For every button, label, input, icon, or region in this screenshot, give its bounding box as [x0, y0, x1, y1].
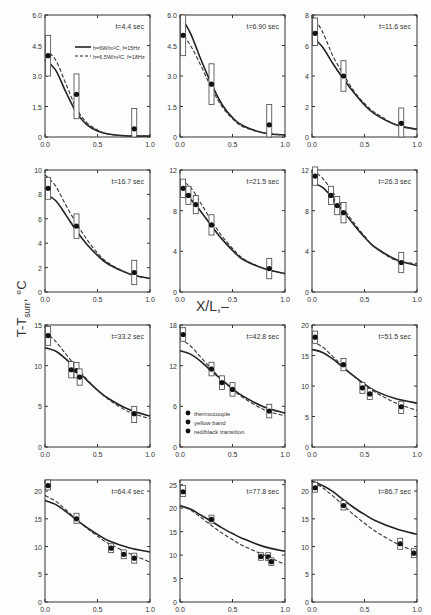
panel-12: 051015200.00.51.0t=86.7 sec	[301, 480, 422, 613]
y-tick-label: 10	[169, 552, 177, 559]
x-tick-label: 0.0	[307, 141, 317, 148]
legend-marker-icon	[186, 411, 191, 416]
panel-time-label: t=42.8 sec	[247, 333, 280, 340]
panel-4: 02468100.00.51.0t=16.7 sec	[34, 167, 155, 303]
y-tick-label: 10	[34, 363, 42, 370]
y-tick-label: 2	[305, 104, 309, 111]
x-tick-label: 0.5	[360, 451, 370, 458]
x-axis-label: X/L,–	[196, 298, 229, 314]
data-point	[341, 73, 346, 78]
data-point	[313, 485, 318, 490]
x-tick-label: 1.0	[412, 451, 422, 458]
y-tick-label: 1.5	[167, 104, 177, 111]
data-point	[69, 367, 74, 372]
y-tick-label: 0	[38, 134, 42, 141]
y-tick-label: 6	[173, 403, 177, 410]
y-tick-label: 15	[34, 322, 42, 329]
y-tick-label: 5	[38, 571, 42, 578]
y-tick-label: 8	[173, 208, 177, 215]
y-tick-label: 10	[34, 167, 42, 174]
panel-7: 0510150.00.51.0t=33.2 sec	[34, 322, 155, 458]
data-point	[193, 202, 198, 207]
x-tick-label: 0.0	[175, 451, 185, 458]
data-point	[230, 387, 235, 392]
data-point	[267, 122, 272, 127]
data-point	[335, 203, 340, 208]
y-tick-label: 4	[305, 73, 309, 80]
y-tick-label: 0	[173, 444, 177, 451]
y-tick-label: 12	[169, 167, 177, 174]
y-tick-label: 0	[305, 444, 309, 451]
legend-marker-label: red/black transition	[194, 429, 244, 435]
data-point	[46, 186, 51, 191]
y-tick-label: 15	[301, 516, 309, 523]
x-tick-label: 0.5	[228, 606, 238, 613]
x-tick-label: 0.0	[175, 606, 185, 613]
x-tick-label: 1.0	[280, 141, 290, 148]
error-bar	[132, 109, 137, 137]
y-tick-label: 4.5	[167, 43, 177, 50]
x-tick-label: 0.5	[360, 296, 370, 303]
data-point	[269, 559, 274, 564]
data-point	[74, 224, 79, 229]
data-point	[267, 266, 272, 271]
y-tick-label: 25	[169, 482, 177, 489]
data-point	[132, 411, 137, 416]
panel-time-label: t=11.6 sec	[379, 23, 411, 30]
model-curve-solid	[45, 348, 150, 416]
x-tick-label: 1.0	[280, 296, 290, 303]
data-point	[132, 126, 137, 131]
y-tick-label: 3.0	[167, 73, 177, 80]
data-point	[258, 554, 263, 559]
model-curve-solid	[45, 501, 150, 553]
panel-1: 01.53.04.56.00.00.51.0t=4.4 sech=6W/m²C,…	[32, 12, 155, 148]
y-tick-label: 10	[301, 544, 309, 551]
y-tick-label: 5	[305, 571, 309, 578]
legend-marker-label: yellow band	[194, 420, 226, 426]
data-point	[399, 260, 404, 265]
x-tick-label: 1.0	[145, 141, 155, 148]
panel-8: 0612180.00.51.0t=42.8 secthermocoupleyel…	[169, 322, 290, 458]
x-tick-label: 0.5	[360, 606, 370, 613]
data-point	[121, 552, 126, 557]
y-tick-label: 15	[169, 529, 177, 536]
y-tick-label: 20	[169, 505, 177, 512]
x-tick-label: 0.0	[307, 606, 317, 613]
data-point	[219, 380, 224, 385]
y-tick-label: 0	[173, 599, 177, 606]
y-tick-label: 0	[38, 444, 42, 451]
panel-time-label: t=51.5 sec	[379, 333, 412, 340]
data-point	[132, 270, 137, 275]
model-curve-solid	[312, 349, 417, 403]
y-tick-label: 5	[38, 403, 42, 410]
y-tick-label: 0	[305, 289, 309, 296]
y-tick-label: 6.0	[167, 12, 177, 19]
y-tick-label: 0	[173, 289, 177, 296]
panel-time-label: t=6.90 sec	[247, 23, 280, 30]
y-tick-label: 2	[38, 265, 42, 272]
y-tick-label: 0	[305, 599, 309, 606]
x-tick-label: 0.0	[307, 296, 317, 303]
y-tick-label: 5	[173, 576, 177, 583]
y-tick-label: 1.5	[32, 104, 42, 111]
error-bar	[267, 104, 272, 137]
legend-marker-icon	[186, 420, 191, 425]
data-point	[399, 121, 404, 126]
x-tick-label: 0.0	[40, 141, 50, 148]
y-tick-label: 3.0	[32, 73, 42, 80]
panel-time-label: t=86.7 sec	[379, 488, 412, 495]
panel-3: 024680.00.51.0t=11.6 sec	[305, 12, 422, 148]
data-point	[313, 335, 318, 340]
x-tick-label: 1.0	[145, 606, 155, 613]
y-tick-label: 20	[34, 488, 42, 495]
panel-2: 01.53.04.56.00.00.51.0t=6.90 sec	[167, 12, 290, 148]
data-point	[186, 193, 191, 198]
data-point	[181, 332, 186, 337]
data-point	[399, 404, 404, 409]
panel-time-label: t=77.8 sec	[247, 488, 280, 495]
x-tick-label: 0.5	[228, 451, 238, 458]
legend-marker-icon	[186, 429, 191, 434]
y-axis-label: T-Tsurr, °C	[14, 264, 32, 354]
y-tick-label: 4.5	[32, 43, 42, 50]
x-tick-label: 0.5	[228, 296, 238, 303]
